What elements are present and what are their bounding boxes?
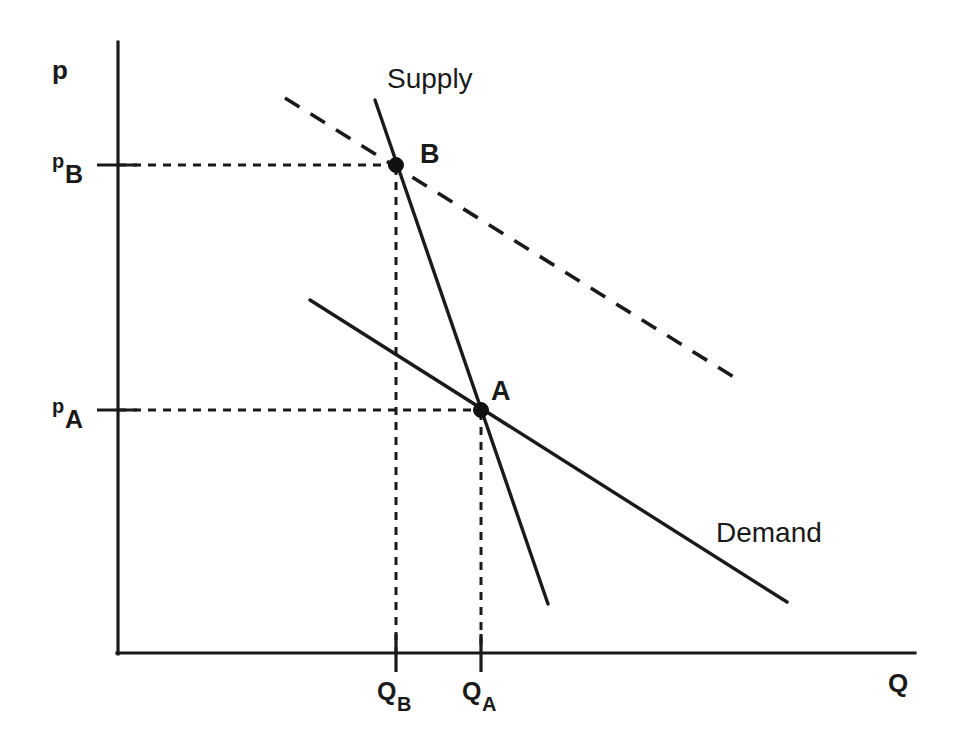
y-axis-label: p [52,55,68,85]
x-axis-label: Q [888,668,908,698]
point-label-a: A [491,376,511,406]
supply-curve-label: Supply [387,63,473,94]
demand-shifted-curve [285,98,737,379]
y-tick-label-pa-sub: A [65,405,83,433]
supply-demand-chart: p Q Supply Demand B A p B p A Q B [0,0,962,739]
y-tick-label-pa-main: p [52,395,64,417]
x-tick-label-qb-sub: B [397,693,411,715]
point-marker-b [389,158,404,173]
y-tick-label-pa: p A [52,395,83,433]
x-tick-label-qb-main: Q [377,677,396,705]
supply-curve [375,100,548,604]
y-tick-label-pb-main: p [52,150,64,172]
curves-group [285,98,787,604]
x-tick-label-qb: Q B [377,677,411,715]
demand-curve-label: Demand [716,517,822,548]
demand-curve [310,300,787,602]
labels-group: p Q Supply Demand B A p B p A Q B [52,55,908,715]
figure-root: p Q Supply Demand B A p B p A Q B [0,0,962,739]
x-tick-label-qa-sub: A [482,693,496,715]
y-tick-label-pb: p B [52,150,83,188]
axes-group [117,42,915,654]
x-tick-label-qa: Q A [462,677,496,715]
guide-lines-group [118,165,483,652]
x-tick-label-qa-main: Q [462,677,481,705]
y-tick-label-pb-sub: B [65,160,83,188]
point-marker-a [474,403,489,418]
point-label-b: B [420,139,440,169]
